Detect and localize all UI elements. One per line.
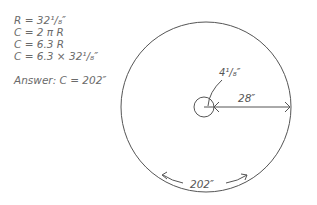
inner-radius-label: 4¹/₈″	[219, 67, 241, 78]
arc-arrow-right	[226, 175, 247, 183]
circle-diagram: 4¹/₈″ 28″ 202″	[0, 0, 317, 205]
circumference-label: 202″	[190, 178, 214, 190]
leader-line	[208, 80, 222, 106]
radius-label: 28″	[238, 92, 255, 104]
